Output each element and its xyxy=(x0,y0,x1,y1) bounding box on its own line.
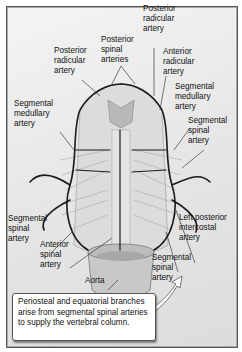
label-posterior-radicular-artery-left: Posterior radicular artery xyxy=(54,46,87,76)
label-anterior-spinal-artery: Anterior spinal artery xyxy=(40,240,69,270)
label-segmental-spinal-artery-right-lower: Segmental spinal artery xyxy=(152,253,191,283)
label-segmental-medullary-artery-right: Segmental medullary artery xyxy=(175,82,214,112)
label-posterior-spinal-arteries: Posterior spinal arteries xyxy=(101,35,134,65)
label-segmental-spinal-artery-right-upper: Segmental spinal artery xyxy=(188,116,227,146)
label-posterior-radicular-artery-top: Posterior radicular artery xyxy=(143,4,176,34)
callout-note: Periosteal and equatorial branches arise… xyxy=(12,293,156,341)
aorta-shape xyxy=(88,244,154,298)
label-segmental-medullary-artery-left: Segmental medullary artery xyxy=(14,99,53,129)
label-left-posterior-intercostal-artery: Left posterior intercostal artery xyxy=(179,213,227,243)
label-anterior-radicular-artery: Anterior radicular artery xyxy=(163,47,194,77)
spinal-cord-shape xyxy=(74,84,168,255)
label-aorta: Aorta xyxy=(85,276,105,286)
